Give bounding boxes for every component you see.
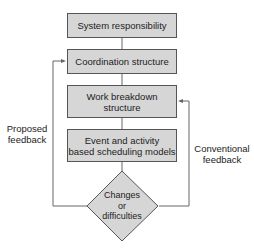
- node-system-responsibility: System responsibility: [67, 13, 177, 38]
- conventional-feedback-label: Conventional feedback: [190, 143, 254, 165]
- node-work-breakdown-structure: Work breakdown structure: [67, 85, 177, 118]
- node-scheduling-models: Event and activity based scheduling mode…: [67, 129, 177, 162]
- node-label-line2: structure: [104, 102, 141, 113]
- proposed-feedback-label: Proposed feedback: [2, 123, 52, 145]
- diamond-label: Changes or difficulties: [92, 190, 152, 222]
- node-coordination-structure: Coordination structure: [67, 49, 177, 74]
- flowchart: System responsibility Coordination struc…: [0, 0, 254, 251]
- node-label-line1: Work breakdown: [86, 91, 157, 102]
- node-label-line1: Event and activity: [85, 135, 159, 146]
- node-label: Coordination structure: [75, 56, 168, 67]
- node-label-line2: based scheduling models: [68, 146, 175, 157]
- node-label: System responsibility: [77, 20, 166, 31]
